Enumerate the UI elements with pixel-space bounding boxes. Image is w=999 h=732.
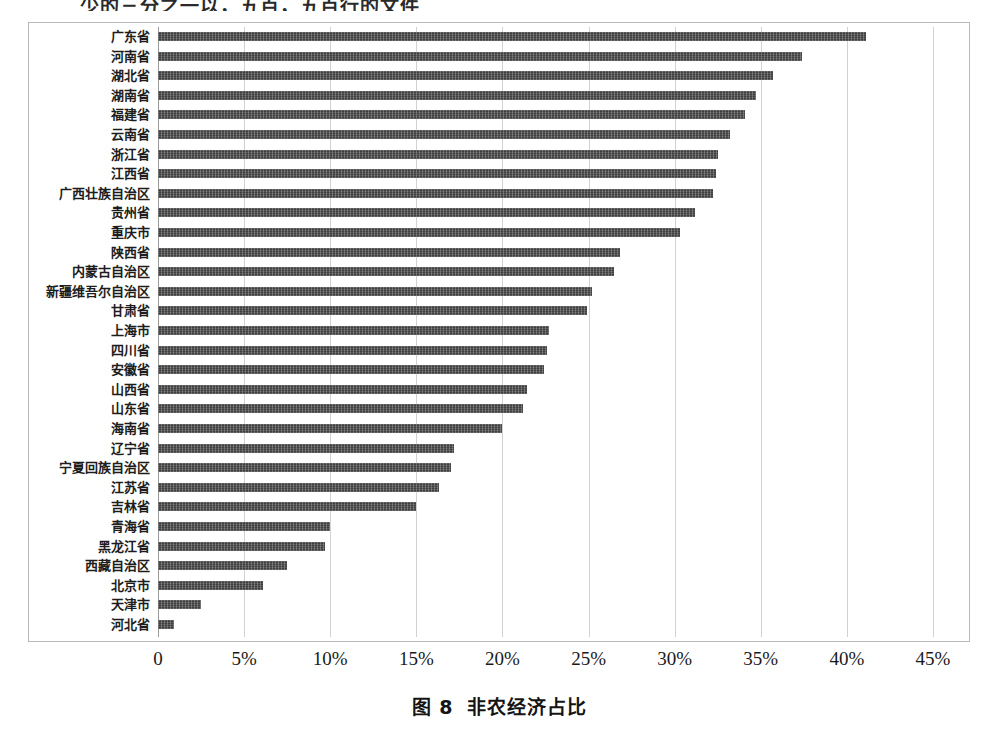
- chart-row: 重庆市: [0, 223, 999, 243]
- x-tick-label: 30%: [657, 648, 692, 670]
- bar: [158, 385, 527, 394]
- category-label: 江西省: [0, 164, 150, 184]
- chart-row: 青海省: [0, 517, 999, 537]
- chart-row: 江苏省: [0, 478, 999, 498]
- chart-row: 海南省: [0, 419, 999, 439]
- bar: [158, 581, 263, 590]
- category-label: 甘肃省: [0, 301, 150, 321]
- chart-row: 河北省: [0, 615, 999, 635]
- chart-row: 广东省: [0, 27, 999, 47]
- bar: [158, 444, 454, 453]
- bar: [158, 502, 416, 511]
- category-label: 安徽省: [0, 360, 150, 380]
- category-label: 河南省: [0, 47, 150, 67]
- x-tick-label: 15%: [399, 648, 434, 670]
- category-label: 吉林省: [0, 497, 150, 517]
- bar: [158, 52, 802, 61]
- chart-row: 甘肃省: [0, 301, 999, 321]
- bar: [158, 169, 716, 178]
- category-label: 云南省: [0, 125, 150, 145]
- x-tick-label: 25%: [571, 648, 606, 670]
- bar: [158, 267, 614, 276]
- category-label: 重庆市: [0, 223, 150, 243]
- category-label: 浙江省: [0, 145, 150, 165]
- x-axis-tick-labels: 05%10%15%20%25%30%35%40%45%: [0, 648, 999, 678]
- x-tick-label: 0: [153, 648, 163, 670]
- bar: [158, 306, 587, 315]
- bar: [158, 483, 439, 492]
- chart-row: 辽宁省: [0, 439, 999, 459]
- bar: [158, 110, 745, 119]
- category-label: 湖北省: [0, 66, 150, 86]
- chart-row: 四川省: [0, 341, 999, 361]
- bar: [158, 522, 330, 531]
- chart-row: 吉林省: [0, 497, 999, 517]
- category-label: 辽宁省: [0, 439, 150, 459]
- category-label: 黑龙江省: [0, 537, 150, 557]
- chart-row: 山东省: [0, 399, 999, 419]
- bar: [158, 150, 718, 159]
- category-label: 陕西省: [0, 243, 150, 263]
- bar: [158, 71, 773, 80]
- x-tick-label: 45%: [916, 648, 951, 670]
- chart-row: 云南省: [0, 125, 999, 145]
- chart-row: 黑龙江省: [0, 537, 999, 557]
- category-label: 贵州省: [0, 203, 150, 223]
- category-label: 天津市: [0, 595, 150, 615]
- chart-row: 内蒙古自治区: [0, 262, 999, 282]
- category-label: 山西省: [0, 380, 150, 400]
- category-label: 内蒙古自治区: [0, 262, 150, 282]
- category-label: 福建省: [0, 105, 150, 125]
- category-label: 青海省: [0, 517, 150, 537]
- bar: [158, 91, 756, 100]
- bar: [158, 620, 174, 629]
- bar: [158, 542, 325, 551]
- chart-row: 西藏自治区: [0, 556, 999, 576]
- bar: [158, 561, 287, 570]
- chart-row: 福建省: [0, 105, 999, 125]
- bar: [158, 208, 695, 217]
- chart-row: 陕西省: [0, 243, 999, 263]
- bar: [158, 189, 713, 198]
- category-label: 新疆维吾尔自治区: [0, 282, 150, 302]
- category-label: 河北省: [0, 615, 150, 635]
- chart-row: 河南省: [0, 47, 999, 67]
- category-label: 西藏自治区: [0, 556, 150, 576]
- chart-row: 新疆维吾尔自治区: [0, 282, 999, 302]
- chart-row: 宁夏回族自治区: [0, 458, 999, 478]
- bar: [158, 32, 866, 41]
- figure-title: 非农经济占比: [467, 696, 587, 718]
- chart-row: 北京市: [0, 576, 999, 596]
- category-label: 广西壮族自治区: [0, 184, 150, 204]
- chart-row: 湖北省: [0, 66, 999, 86]
- chart-row: 安徽省: [0, 360, 999, 380]
- bar: [158, 248, 620, 257]
- x-tick-label: 20%: [485, 648, 520, 670]
- chart-row: 上海市: [0, 321, 999, 341]
- category-label: 宁夏回族自治区: [0, 458, 150, 478]
- chart-row: 广西壮族自治区: [0, 184, 999, 204]
- bar: [158, 404, 523, 413]
- category-label: 山东省: [0, 399, 150, 419]
- bar: [158, 326, 549, 335]
- category-label: 广东省: [0, 27, 150, 47]
- bar: [158, 463, 451, 472]
- chart-row: 天津市: [0, 595, 999, 615]
- non-agricultural-economy-share-chart: 广东省河南省湖北省湖南省福建省云南省浙江省江西省广西壮族自治区贵州省重庆市陕西省…: [0, 0, 999, 732]
- bar: [158, 130, 730, 139]
- chart-row: 浙江省: [0, 145, 999, 165]
- category-label: 湖南省: [0, 86, 150, 106]
- bar: [158, 424, 502, 433]
- chart-row: 贵州省: [0, 203, 999, 223]
- chart-row: 湖南省: [0, 86, 999, 106]
- category-label: 江苏省: [0, 478, 150, 498]
- x-tick-label: 40%: [829, 648, 864, 670]
- category-label: 海南省: [0, 419, 150, 439]
- x-tick-label: 10%: [313, 648, 348, 670]
- chart-row: 江西省: [0, 164, 999, 184]
- bar: [158, 228, 680, 237]
- chart-row: 山西省: [0, 380, 999, 400]
- x-tick-label: 35%: [743, 648, 778, 670]
- category-label: 四川省: [0, 341, 150, 361]
- figure-caption: 图 8非农经济占比: [0, 692, 999, 719]
